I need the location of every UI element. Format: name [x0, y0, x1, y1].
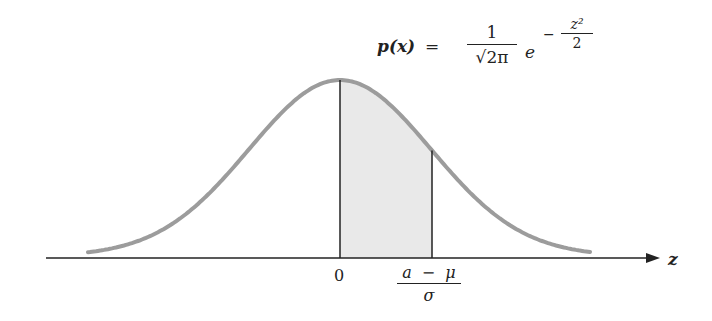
- tick-fraction-bar: [397, 283, 461, 284]
- shaded-area: [340, 80, 432, 258]
- fraction-bar: [467, 44, 517, 45]
- formula-base-e: e: [525, 42, 535, 62]
- formula-lhs: p(x): [377, 36, 415, 56]
- symbol-a: a: [402, 263, 412, 282]
- z-axis-arrowhead: [646, 253, 660, 263]
- formula-numerator: 1: [467, 22, 517, 42]
- symbol-sigma: σ: [397, 286, 461, 305]
- tick-numerator: a−μ: [397, 263, 461, 282]
- axis-label-z: z: [668, 249, 678, 269]
- exponent-fraction: z² 2: [561, 16, 593, 51]
- symbol-minus: −: [422, 263, 435, 282]
- formula-denominator: √2π: [467, 47, 517, 67]
- tick-label-a-mu-sigma: a−μ σ: [397, 263, 461, 305]
- formula-equals: =: [425, 36, 439, 56]
- exponent-sign: −: [543, 26, 555, 42]
- normal-curve: [88, 80, 590, 252]
- symbol-mu: μ: [445, 263, 455, 282]
- density-formula: p(x) = 1 √2π e − z² 2: [377, 20, 677, 80]
- formula-fraction: 1 √2π: [467, 22, 517, 67]
- exponent-fraction-bar: [561, 33, 593, 34]
- tick-label-zero: 0: [334, 266, 344, 285]
- exponent-denominator: 2: [561, 35, 593, 51]
- exponent-numerator: z²: [561, 16, 593, 32]
